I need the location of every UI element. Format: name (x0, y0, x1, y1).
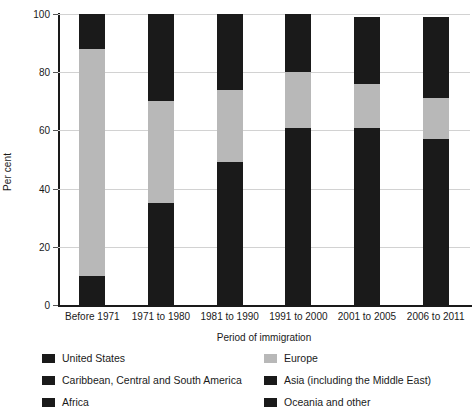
bar-segment[interactable] (423, 98, 449, 139)
legend-swatch-icon (42, 398, 55, 407)
bar-segment[interactable] (285, 14, 311, 72)
y-tick-label-20: 20 (39, 241, 50, 252)
legend-swatch-icon (264, 398, 277, 407)
bar-segment[interactable] (79, 276, 105, 305)
bar-segment[interactable] (423, 17, 449, 98)
bar-stack[interactable] (217, 14, 243, 305)
bar-segment[interactable] (148, 14, 174, 101)
gridline-0 (58, 305, 470, 306)
bar-segment[interactable] (79, 14, 105, 49)
legend-swatch-icon (42, 376, 55, 385)
legend-label: Caribbean, Central and South America (62, 374, 242, 386)
bar-segment[interactable] (217, 14, 243, 90)
legend-item[interactable]: Asia (including the Middle East) (264, 374, 431, 386)
legend-item[interactable]: Africa (42, 396, 89, 408)
bar-stack[interactable] (354, 14, 380, 305)
immigration-period-stacked-bar-chart: Per cent 020406080100 Before 19711971 to… (0, 0, 476, 414)
y-tick-label-40: 40 (39, 183, 50, 194)
bar-slot[interactable] (195, 14, 264, 305)
bar-segment[interactable] (354, 84, 380, 128)
legend-item[interactable]: United States (42, 352, 125, 364)
legend-label: Asia (including the Middle East) (284, 374, 431, 386)
bar-slot[interactable] (333, 14, 402, 305)
bar-segment[interactable] (285, 72, 311, 127)
y-tick-mark-0 (53, 305, 58, 306)
y-tick-label-0: 0 (44, 300, 50, 311)
y-tick-label-60: 60 (39, 125, 50, 136)
plot-area: 020406080100 (58, 14, 470, 305)
bar-segment[interactable] (354, 128, 380, 306)
legend-label: Africa (62, 396, 89, 408)
bar-segment[interactable] (423, 139, 449, 305)
legend-label: Oceania and other (284, 396, 370, 408)
x-tick-label: 2006 to 2011 (391, 311, 476, 322)
bar-segment[interactable] (79, 49, 105, 276)
y-axis-title: Per cent (2, 132, 13, 212)
bar-stack[interactable] (148, 14, 174, 305)
bar-segment[interactable] (148, 101, 174, 203)
legend-label: Europe (284, 352, 318, 364)
bar-stack[interactable] (79, 14, 105, 305)
bar-segment[interactable] (354, 17, 380, 84)
bar-slot[interactable] (127, 14, 196, 305)
bar-segment[interactable] (217, 162, 243, 305)
chart-legend: United StatesCaribbean, Central and Sout… (42, 352, 462, 412)
legend-item[interactable]: Europe (264, 352, 318, 364)
legend-swatch-icon (264, 376, 277, 385)
bar-segment[interactable] (285, 128, 311, 306)
legend-item[interactable]: Oceania and other (264, 396, 370, 408)
legend-swatch-icon (264, 354, 277, 363)
x-axis-title: Period of immigration (58, 332, 470, 343)
bar-stack[interactable] (285, 14, 311, 305)
bar-stack[interactable] (423, 14, 449, 305)
y-tick-label-80: 80 (39, 67, 50, 78)
legend-label: United States (62, 352, 125, 364)
bar-segment[interactable] (148, 203, 174, 305)
bar-segment[interactable] (217, 90, 243, 163)
bar-slot[interactable] (58, 14, 127, 305)
bar-slot[interactable] (401, 14, 470, 305)
legend-item[interactable]: Caribbean, Central and South America (42, 374, 242, 386)
bar-slot[interactable] (264, 14, 333, 305)
y-tick-label-100: 100 (33, 9, 50, 20)
legend-swatch-icon (42, 354, 55, 363)
